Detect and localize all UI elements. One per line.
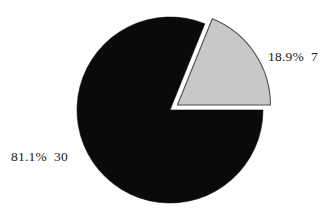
- pie-chart: 18.9% 7 81.1% 30: [0, 0, 333, 219]
- pie-chart-canvas: [0, 0, 333, 219]
- pie-label-gray-slice: 18.9% 7: [268, 50, 318, 64]
- pie-label-black-slice: 81.1% 30: [11, 150, 68, 164]
